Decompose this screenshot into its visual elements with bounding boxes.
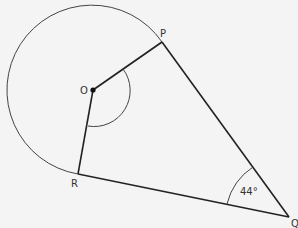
label-P: P	[160, 28, 166, 39]
tangent-PQ	[162, 42, 289, 217]
angle-arc-O	[88, 69, 130, 127]
radius-OR	[78, 90, 93, 174]
radius-OP	[93, 42, 162, 90]
center-point-O	[90, 87, 95, 92]
label-O: O	[80, 85, 88, 96]
label-R: R	[71, 178, 78, 189]
angle-label-Q: 44°	[240, 186, 258, 197]
geometry-diagram: O P R Q 44°	[0, 0, 298, 228]
label-Q: Q	[291, 218, 298, 228]
